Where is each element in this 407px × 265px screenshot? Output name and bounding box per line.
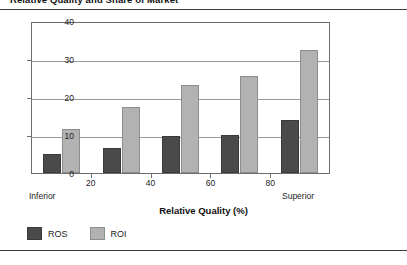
legend-swatch-ros (27, 227, 42, 240)
x-axis-endcap-right: Superior (282, 191, 314, 201)
bar-group (281, 23, 318, 173)
x-axis-endcap-left: Inferior (29, 191, 55, 201)
y-axis-tick-mark (27, 136, 31, 137)
bar-roi[interactable] (122, 107, 140, 174)
bar-group (103, 23, 140, 173)
bar-roi[interactable] (181, 85, 199, 173)
legend: ROSROI (27, 227, 127, 240)
bar-group (162, 23, 199, 173)
legend-item-ros[interactable]: ROS (27, 227, 68, 240)
x-axis-tick-mark (210, 174, 211, 178)
bar-roi[interactable] (240, 76, 258, 173)
bar-ros[interactable] (103, 148, 121, 173)
bar-ros[interactable] (162, 136, 180, 173)
plot-area (31, 22, 330, 174)
x-axis-tick-label: 40 (131, 178, 171, 188)
x-axis-tick-label: 20 (71, 178, 111, 188)
legend-label-roi: ROI (111, 229, 127, 239)
bar-group (221, 23, 258, 173)
y-axis-tick-mark (27, 98, 31, 99)
x-axis-tick-mark (91, 174, 92, 178)
x-axis-title: Relative Quality (%) (0, 205, 407, 216)
title-divider-top (0, 9, 407, 10)
y-axis-tick-label: 10 (50, 131, 74, 141)
legend-swatch-roi (90, 227, 105, 240)
x-axis-tick-label: 80 (250, 178, 290, 188)
figure-title: Relative Quality and Share of Market (10, 0, 178, 5)
figure-container: Relative Quality and Share of Market 010… (0, 0, 407, 265)
legend-item-roi[interactable]: ROI (90, 227, 127, 240)
legend-label-ros: ROS (48, 229, 68, 239)
y-axis-tick-label: 20 (50, 93, 74, 103)
x-axis-tick-label: 60 (190, 178, 230, 188)
bar-series-container (32, 23, 329, 173)
y-axis-tick-mark (27, 60, 31, 61)
x-axis-tick-mark (151, 174, 152, 178)
y-axis-tick-label: 40 (50, 17, 74, 27)
bar-ros[interactable] (281, 120, 299, 173)
bar-ros[interactable] (221, 135, 239, 173)
figure-divider-bottom (0, 250, 407, 251)
x-axis-tick-mark (270, 174, 271, 178)
y-axis-tick-label: 30 (50, 55, 74, 65)
bar-roi[interactable] (300, 50, 318, 174)
